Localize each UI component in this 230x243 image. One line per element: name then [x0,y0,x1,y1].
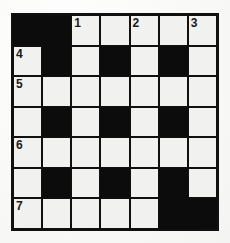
grid-open-cell[interactable] [188,137,217,168]
grid-open-cell[interactable]: 7 [13,198,42,229]
grid-open-cell[interactable]: 6 [13,137,42,168]
grid-open-cell[interactable] [130,198,159,229]
grid-open-cell[interactable] [13,107,42,138]
grid-open-cell[interactable] [71,168,100,199]
grid-open-cell[interactable] [71,76,100,107]
grid-open-cell[interactable] [100,137,129,168]
grid-open-cell[interactable] [159,15,188,46]
grid-open-cell[interactable] [130,137,159,168]
grid-block-cell [13,15,42,46]
grid-block-cell [42,15,71,46]
clue-number: 1 [74,16,81,30]
grid-block-cell [188,198,217,229]
grid-open-cell[interactable] [71,137,100,168]
grid-block-cell [100,46,129,77]
grid-open-cell[interactable]: 5 [13,76,42,107]
clue-number: 2 [133,16,140,30]
grid-open-cell[interactable] [100,15,129,46]
grid-open-cell[interactable] [130,46,159,77]
clue-number: 7 [16,199,23,213]
grid-open-cell[interactable] [130,168,159,199]
grid-block-cell [100,168,129,199]
grid-block-cell [42,107,71,138]
grid-open-cell[interactable] [42,198,71,229]
crossword-grid[interactable]: 1234567 [11,13,219,231]
grid-open-cell[interactable]: 3 [188,15,217,46]
grid-open-cell[interactable] [159,137,188,168]
grid-open-cell[interactable] [100,76,129,107]
grid-open-cell[interactable]: 1 [71,15,100,46]
grid-open-cell[interactable] [42,137,71,168]
grid-open-cell[interactable] [100,198,129,229]
grid-block-cell [100,107,129,138]
grid-block-cell [42,46,71,77]
clue-number: 5 [16,77,23,91]
grid-block-cell [159,107,188,138]
grid-block-cell [42,168,71,199]
clue-number: 3 [191,16,198,30]
grid-block-cell [159,198,188,229]
clue-number: 6 [16,138,23,152]
grid-open-cell[interactable]: 2 [130,15,159,46]
grid-open-cell[interactable] [13,168,42,199]
grid-open-cell[interactable] [42,76,71,107]
grid-open-cell[interactable] [71,107,100,138]
grid-open-cell[interactable] [130,107,159,138]
grid-block-cell [159,168,188,199]
grid-open-cell[interactable] [159,76,188,107]
crossword-puzzle: 1234567 [0,0,230,243]
grid-open-cell[interactable] [188,107,217,138]
grid-open-cell[interactable] [130,76,159,107]
clue-number: 4 [16,47,23,61]
grid-block-cell [159,46,188,77]
grid-open-cell[interactable] [188,46,217,77]
grid-open-cell[interactable] [71,198,100,229]
grid-open-cell[interactable] [188,168,217,199]
grid-open-cell[interactable] [71,46,100,77]
grid-open-cell[interactable]: 4 [13,46,42,77]
grid-open-cell[interactable] [188,76,217,107]
